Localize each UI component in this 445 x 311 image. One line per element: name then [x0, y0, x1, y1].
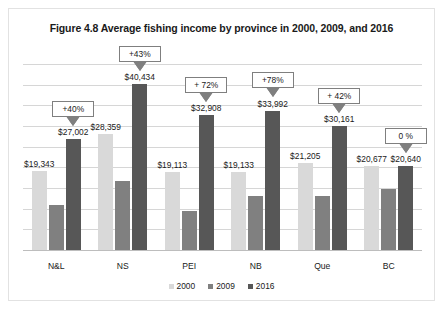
callout-text: + 72% [194, 80, 218, 90]
legend-swatch-icon [169, 284, 174, 289]
bar-2009-NB [248, 196, 263, 251]
callout-pointer-icon [67, 116, 79, 125]
callout-N&L: +40% [52, 101, 94, 117]
bar-2000-NB [231, 172, 246, 251]
bar-2009-Que [315, 196, 330, 251]
value-label: $20,640 [383, 154, 429, 164]
value-label: $19,343 [16, 159, 62, 169]
chart-legend: 200020092016 [9, 281, 434, 291]
legend-label: 2000 [177, 281, 196, 291]
bar-group: $28,359$40,434 [90, 65, 157, 251]
chart-container: Figure 4.8 Average fishing income by pro… [8, 8, 435, 301]
bar-2000-Que [298, 163, 313, 251]
legend-label: 2016 [256, 281, 275, 291]
legend-item-2000[interactable]: 2000 [169, 281, 196, 291]
callout-NS: +43% [119, 46, 161, 62]
callout-pointer-icon [134, 61, 146, 70]
x-tick-PEI: PEI [156, 261, 223, 271]
bar-2016-NB [265, 111, 280, 252]
callout-Que: + 42% [318, 88, 360, 104]
bar-2009-PEI [182, 211, 197, 251]
bar-2000-NS [98, 134, 113, 251]
value-label: $19,133 [216, 160, 262, 170]
bar-2009-NS [115, 181, 130, 251]
bar-group: $19,343$27,002 [23, 65, 90, 251]
legend-swatch-icon [208, 284, 213, 289]
callout-pointer-icon [400, 143, 412, 152]
x-tick-Que: Que [289, 261, 356, 271]
bar-2016-BC [398, 166, 413, 251]
callout-PEI: + 72% [185, 77, 227, 93]
callout-text: +78% [262, 75, 284, 85]
callout-text: +43% [129, 49, 151, 59]
x-tick-NB: NB [223, 261, 290, 271]
callout-pointer-icon [333, 103, 345, 112]
callout-text: +40% [62, 104, 84, 114]
value-label: $19,113 [149, 160, 195, 170]
callout-pointer-icon [267, 87, 279, 96]
value-label: $28,359 [83, 122, 129, 132]
callout-pointer-icon [200, 92, 212, 101]
bar-2000-N&L [32, 171, 47, 251]
bar-group: $20,677$20,640 [356, 65, 423, 251]
bar-2016-Que [332, 126, 347, 251]
callout-BC: 0 % [385, 128, 427, 144]
legend-label: 2009 [216, 281, 235, 291]
x-tick-NS: NS [90, 261, 157, 271]
x-tick-BC: BC [356, 261, 423, 271]
chart-title: Figure 4.8 Average fishing income by pro… [9, 22, 434, 34]
value-label: $21,205 [282, 151, 328, 161]
x-axis-labels: N&LNSPEINBQueBC [23, 261, 422, 277]
legend-swatch-icon [248, 284, 253, 289]
bar-2000-BC [364, 166, 379, 251]
callout-text: 0 % [399, 131, 413, 141]
x-tick-N&L: N&L [23, 261, 90, 271]
bar-2000-PEI [165, 172, 180, 251]
callout-NB: +78% [252, 72, 294, 88]
bar-2016-NS [132, 84, 147, 251]
bar-2016-N&L [66, 139, 81, 251]
bar-2016-PEI [199, 115, 214, 251]
callout-text: + 42% [327, 91, 351, 101]
axis-baseline [23, 250, 422, 251]
bar-2009-N&L [49, 205, 64, 251]
legend-item-2016[interactable]: 2016 [248, 281, 275, 291]
bar-2009-BC [381, 189, 396, 251]
legend-item-2009[interactable]: 2009 [208, 281, 235, 291]
